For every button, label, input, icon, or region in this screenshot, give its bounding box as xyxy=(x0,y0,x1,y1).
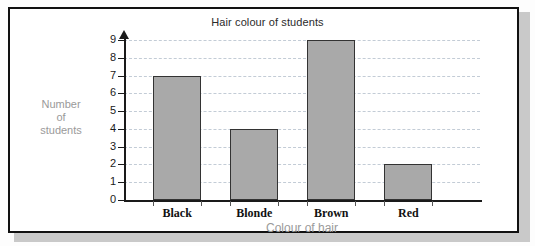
y-axis-tick-label: 2 xyxy=(94,158,116,169)
x-axis-title: Colour of hair xyxy=(124,221,480,235)
y-axis-title-line-1: Number xyxy=(24,98,98,111)
y-axis-tick-label: 8 xyxy=(94,52,116,63)
y-axis-tick-mark xyxy=(118,129,124,130)
chart-title: Hair colour of students xyxy=(0,16,535,28)
gridline xyxy=(124,40,480,41)
bar-blonde xyxy=(230,129,278,200)
y-axis-line xyxy=(124,37,126,201)
category-label-brown: Brown xyxy=(289,206,373,221)
category-label-black: Black xyxy=(135,206,219,221)
bar-red xyxy=(384,164,432,200)
y-axis-tick-mark xyxy=(118,200,124,201)
x-axis-line xyxy=(124,200,482,202)
category-label-blonde: Blonde xyxy=(212,206,296,221)
y-axis-tick-label: 0 xyxy=(94,194,116,205)
y-axis-tick-mark xyxy=(118,147,124,148)
y-axis-tick-label: 7 xyxy=(94,70,116,81)
y-axis-tick-mark xyxy=(118,58,124,59)
gridline xyxy=(124,58,480,59)
category-label-red: Red xyxy=(366,206,450,221)
y-axis-tick-label: 9 xyxy=(94,34,116,45)
y-axis-tick-mark xyxy=(118,164,124,165)
plot-area xyxy=(124,40,480,200)
y-axis-tick-mark xyxy=(118,182,124,183)
y-axis-tick-mark xyxy=(118,111,124,112)
y-axis-tick-mark xyxy=(118,93,124,94)
y-axis-title: Number of students xyxy=(24,98,98,137)
y-axis-tick-label: 5 xyxy=(94,105,116,116)
bar-brown xyxy=(307,40,355,200)
y-axis-tick-mark xyxy=(118,40,124,41)
y-axis-tick-label: 6 xyxy=(94,87,116,98)
y-axis-title-line-2: of xyxy=(24,111,98,124)
figure-container: Hair colour of students Number of studen… xyxy=(0,0,535,246)
bar-black xyxy=(153,76,201,200)
y-axis-tick-label: 1 xyxy=(94,176,116,187)
y-axis-tick-label: 3 xyxy=(94,141,116,152)
y-axis-tick-label: 4 xyxy=(94,123,116,134)
y-axis-tick-mark xyxy=(118,76,124,77)
y-axis-title-line-3: students xyxy=(24,124,98,137)
y-axis-arrow-icon xyxy=(119,30,129,39)
